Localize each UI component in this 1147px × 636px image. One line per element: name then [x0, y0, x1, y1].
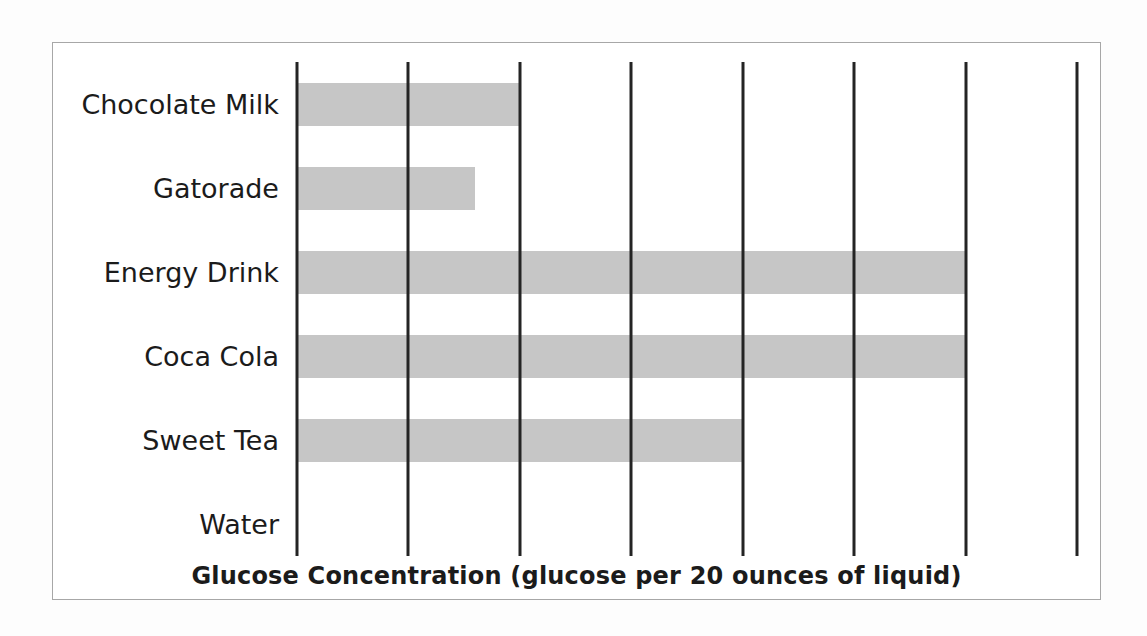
category-label-sweet-tea: Sweet Tea — [53, 424, 279, 458]
baseline-axis-line — [296, 62, 299, 556]
gridline — [853, 62, 856, 556]
category-label-coca-cola: Coca Cola — [53, 340, 279, 374]
category-label-water: Water — [53, 508, 279, 542]
category-label-gatorade: Gatorade — [53, 172, 279, 206]
gridline — [407, 62, 410, 556]
bar-gatorade — [297, 167, 475, 210]
category-label-energy-drink: Energy Drink — [53, 256, 279, 290]
gridline — [964, 62, 967, 556]
category-label-chocolate-milk: Chocolate Milk — [53, 88, 279, 122]
gridline — [1076, 62, 1079, 556]
scanned-page: Chocolate MilkGatoradeEnergy DrinkCoca C… — [0, 0, 1147, 636]
category-labels-column: Chocolate MilkGatoradeEnergy DrinkCoca C… — [53, 43, 279, 599]
glucose-bar-chart: Chocolate MilkGatoradeEnergy DrinkCoca C… — [52, 42, 1101, 600]
chart-title: Glucose Concentration (glucose per 20 ou… — [53, 562, 1100, 590]
gridline — [741, 62, 744, 556]
gridline — [630, 62, 633, 556]
gridline — [518, 62, 521, 556]
plot-area — [297, 62, 1077, 556]
